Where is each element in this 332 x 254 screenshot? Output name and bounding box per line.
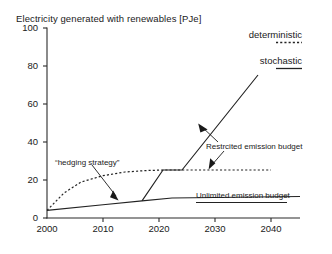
x-tick-label-2000: 2000 (27, 223, 67, 234)
legend-item-stochastic: stochastic (192, 55, 302, 66)
y-tick-label-60: 60 (6, 98, 38, 109)
series-stochastic-trunk (47, 201, 142, 211)
axis-x (47, 218, 301, 222)
legend-item-deterministic: deterministic (192, 29, 302, 40)
y-tick-label-80: 80 (6, 60, 38, 71)
annotation-hedging-strategy: “hedging strategy” (55, 158, 119, 167)
chart-screenshot: Electricity generated with renewables [P… (0, 0, 332, 254)
y-tick-label-0: 0 (6, 212, 38, 223)
hedging-leader-arrow (92, 165, 119, 201)
x-tick-label-2030: 2030 (195, 223, 235, 234)
y-tick-label-40: 40 (6, 136, 38, 147)
series-restricted-branch (142, 75, 258, 201)
annotation-restricted-emission-budget: Restrcited emission budget (206, 142, 303, 151)
x-tick-label-2020: 2020 (139, 223, 179, 234)
restricted-leader-arrow (198, 123, 218, 142)
deterministic-leader-arrow (209, 151, 224, 169)
y-tick-label-100: 100 (6, 22, 38, 33)
y-tick-label-20: 20 (6, 174, 38, 185)
x-tick-label-2040: 2040 (251, 223, 291, 234)
annotation-unlimited-emission-budget: Unlimited emission budget (196, 191, 290, 200)
axis-y (43, 28, 47, 219)
x-tick-label-2010: 2010 (83, 223, 123, 234)
